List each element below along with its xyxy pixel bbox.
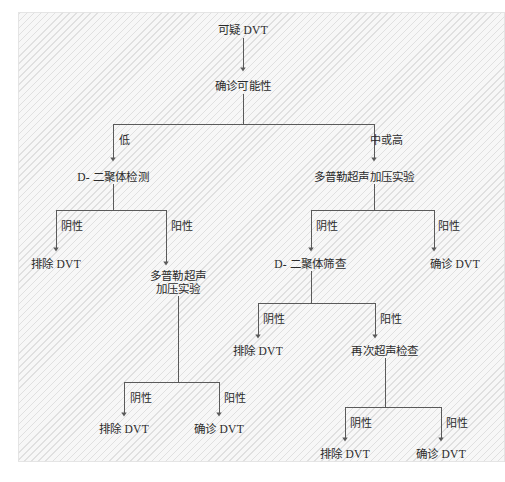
edge-label-positive-2: 阳性 [438, 220, 460, 232]
node-exclude-dvt-4: 排除 DVT [320, 448, 370, 461]
node-suspected-dvt: 可疑 DVT [218, 24, 268, 37]
node-label: D- 二聚体筛查 [274, 258, 346, 271]
edge-label-negative-3: 阴性 [263, 313, 285, 325]
edge-label-low: 低 [119, 134, 130, 146]
node-exclude-dvt-3: 排除 DVT [99, 423, 149, 436]
edge-label-negative-5: 阴性 [350, 417, 372, 429]
edge-label-positive-1: 阳性 [171, 220, 193, 232]
node-label: 确诊 DVT [194, 423, 244, 436]
node-label: 确诊 DVT [416, 448, 466, 461]
node-d-dimer-test: D- 二聚体检测 [77, 171, 149, 184]
node-doppler-compression-ultrasound-2: 多普勒超声 加压实验 [150, 270, 206, 296]
node-label-line1: 多普勒超声 [150, 270, 206, 283]
edge-label-negative-2: 阴性 [316, 220, 338, 232]
edge-label-moderate-or-high: 中或高 [370, 134, 404, 146]
node-confirm-dvt-2: 确诊 DVT [194, 423, 244, 436]
node-label: 多普勒超声加压实验 [314, 171, 415, 184]
node-label: 排除 DVT [320, 448, 370, 461]
node-label: 可疑 DVT [218, 24, 268, 37]
edge-label-positive-4: 阳性 [224, 392, 246, 404]
node-exclude-dvt-1: 排除 DVT [31, 258, 81, 271]
node-doppler-compression-ultrasound: 多普勒超声加压实验 [314, 171, 415, 184]
node-label: 排除 DVT [31, 258, 81, 271]
edge-label-negative-4: 阴性 [130, 392, 152, 404]
node-diagnostic-probability: 确诊可能性 [215, 80, 271, 93]
node-repeat-ultrasound: 再次超声检查 [351, 345, 418, 358]
node-label: 确诊可能性 [215, 80, 271, 93]
node-d-dimer-screening: D- 二聚体筛查 [274, 258, 346, 271]
node-label: 确诊 DVT [430, 258, 480, 271]
node-label: 再次超声检查 [351, 345, 418, 358]
node-confirm-dvt-1: 确诊 DVT [430, 258, 480, 271]
edge-label-positive-5: 阳性 [446, 417, 468, 429]
edge-label-negative-1: 阴性 [61, 220, 83, 232]
node-label: D- 二聚体检测 [77, 171, 149, 184]
node-label-line2: 加压实验 [150, 283, 206, 296]
node-confirm-dvt-3: 确诊 DVT [416, 448, 466, 461]
node-label: 排除 DVT [99, 423, 149, 436]
edge-label-positive-3: 阳性 [380, 313, 402, 325]
node-exclude-dvt-2: 排除 DVT [233, 345, 283, 358]
node-label: 排除 DVT [233, 345, 283, 358]
